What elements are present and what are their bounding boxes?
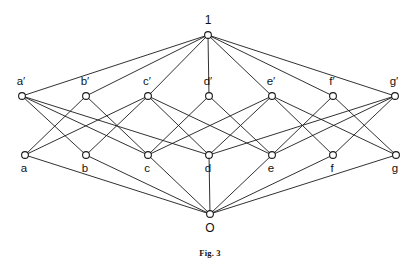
node-label-b: b bbox=[82, 162, 88, 174]
lattice-edge bbox=[208, 35, 395, 96]
lattice-edge bbox=[148, 155, 210, 214]
lattice-edge bbox=[148, 35, 208, 96]
lattice-node-c bbox=[145, 152, 152, 159]
lattice-node-dp bbox=[206, 93, 213, 100]
node-label-e: e bbox=[268, 162, 274, 174]
figure-caption: Fig. 3 bbox=[0, 248, 420, 258]
node-label-dp: d′ bbox=[204, 75, 213, 87]
node-label-fp: f′ bbox=[329, 75, 334, 87]
lattice-diagram: 1a′b′c′d′e′f′g′abcdefgO bbox=[0, 0, 420, 268]
lattice-node-a bbox=[22, 152, 29, 159]
node-label-ap: a′ bbox=[17, 75, 26, 87]
lattice-node-f bbox=[330, 152, 337, 159]
node-label-f: f bbox=[330, 162, 334, 174]
node-label-d: d bbox=[205, 162, 211, 174]
lattice-node-ap bbox=[19, 93, 26, 100]
node-label-c: c bbox=[144, 162, 150, 174]
lattice-node-O bbox=[207, 211, 214, 218]
lattice-edge bbox=[25, 155, 210, 214]
node-label-g: g bbox=[392, 162, 398, 174]
node-label-a: a bbox=[21, 162, 28, 174]
lattice-edge bbox=[210, 155, 272, 214]
lattice-edge bbox=[209, 96, 395, 155]
nodes-layer bbox=[19, 32, 400, 218]
lattice-node-1 bbox=[205, 32, 212, 39]
node-label-1: 1 bbox=[205, 13, 212, 27]
lattice-node-b bbox=[83, 152, 90, 159]
node-label-gp: g′ bbox=[390, 75, 399, 87]
lattice-edge bbox=[208, 35, 272, 96]
node-label-ep: e′ bbox=[267, 75, 276, 87]
lattice-node-fp bbox=[330, 93, 337, 100]
lattice-edge bbox=[22, 96, 209, 155]
figure-container: 1a′b′c′d′e′f′g′abcdefgO Fig. 3 bbox=[0, 0, 420, 268]
edges-layer bbox=[22, 35, 396, 214]
lattice-node-bp bbox=[83, 93, 90, 100]
node-label-O: O bbox=[205, 221, 214, 235]
node-label-cp: c′ bbox=[143, 75, 151, 87]
lattice-node-gp bbox=[392, 93, 399, 100]
lattice-edge bbox=[22, 35, 208, 96]
node-label-bp: b′ bbox=[81, 75, 90, 87]
lattice-node-g bbox=[393, 152, 400, 159]
lattice-edge bbox=[210, 155, 396, 214]
lattice-node-e bbox=[269, 152, 276, 159]
lattice-node-cp bbox=[145, 93, 152, 100]
lattice-node-d bbox=[206, 152, 213, 159]
lattice-node-ep bbox=[269, 93, 276, 100]
